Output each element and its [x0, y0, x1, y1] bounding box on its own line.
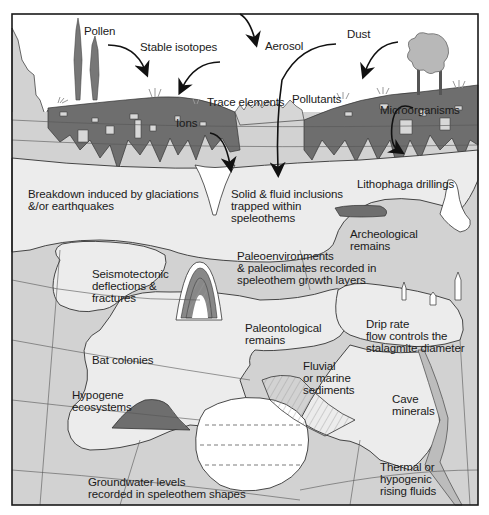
label-ions: Ions [176, 117, 197, 129]
label-pollutants: Pollutants [292, 93, 342, 105]
label-dust: Dust [347, 28, 370, 40]
label-cave-minerals: Cave minerals [392, 393, 435, 417]
label-bat-colonies: Bat colonies [92, 354, 153, 366]
label-fluvial: Fluvial or marine sediments [303, 360, 355, 396]
label-stable-isotopes: Stable isotopes [140, 41, 217, 53]
label-aerosol: Aerosol [265, 40, 303, 52]
cave-archives-diagram: Pollen Stable isotopes Aerosol Dust Trac… [0, 0, 489, 515]
label-lithophaga: Lithophaga drillings [357, 178, 454, 190]
label-solid-fluid-inclusions: Solid & fluid inclusions trapped within … [231, 188, 343, 224]
label-trace-elements: Trace elements [207, 96, 284, 108]
label-seismotectonic: Seismotectonic deflections & fractures [92, 268, 169, 304]
label-groundwater: Groundwater levels recorded in speleothe… [88, 476, 246, 500]
label-microorganisms: Microorganisms [380, 104, 460, 116]
label-pollen: Pollen [84, 25, 115, 37]
label-hypogene: Hypogene ecosystems [72, 389, 132, 413]
label-breakdown: Breakdown induced by glaciations &/or ea… [28, 188, 199, 212]
label-archeological: Archeological remains [350, 228, 418, 252]
label-paleontological: Paleontological remains [245, 322, 322, 346]
label-paleoenvironments: Paleoenvironments & paleoclimates record… [237, 250, 376, 286]
label-drip-rate: Drip rate flow controls the stalagmite d… [366, 318, 464, 354]
label-thermal: Thermal or hypogenic rising fluids [380, 461, 436, 497]
